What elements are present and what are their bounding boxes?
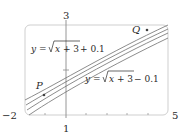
plot-figure: 3 −2 5 1 P Q y = x + 3 + 0.1 y = x + 3 −… bbox=[0, 0, 188, 139]
svg-text:y =: y = bbox=[84, 74, 101, 84]
svg-text:+ 0.1: + 0.1 bbox=[80, 44, 105, 54]
plot-frame bbox=[25, 25, 168, 115]
svg-text:− 0.1: − 0.1 bbox=[134, 74, 159, 84]
curve-upper bbox=[25, 25, 168, 100]
label-y-top: 3 bbox=[63, 10, 69, 21]
svg-text:x + 3: x + 3 bbox=[55, 44, 79, 54]
curves bbox=[25, 25, 168, 115]
label-x-left: −2 bbox=[2, 110, 17, 121]
label-p: P bbox=[35, 80, 43, 91]
label-vline: 1 bbox=[63, 123, 69, 134]
svg-text:x + 3: x + 3 bbox=[109, 74, 133, 84]
label-x-right: 5 bbox=[172, 110, 178, 121]
svg-text:y =: y = bbox=[30, 44, 47, 54]
point-p bbox=[43, 94, 46, 97]
label-q: Q bbox=[132, 24, 140, 35]
lower-equation: y = x + 3 − 0.1 bbox=[84, 71, 159, 84]
curve-mid-upper bbox=[26, 29, 168, 105]
upper-equation: y = x + 3 + 0.1 bbox=[30, 41, 105, 54]
point-q bbox=[146, 29, 149, 32]
